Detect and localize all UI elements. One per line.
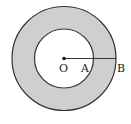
annulus-diagram: O A B <box>0 0 131 124</box>
label-O: O <box>59 62 68 75</box>
center-point-O <box>62 57 66 61</box>
label-B: B <box>117 62 125 75</box>
label-A: A <box>80 62 90 75</box>
